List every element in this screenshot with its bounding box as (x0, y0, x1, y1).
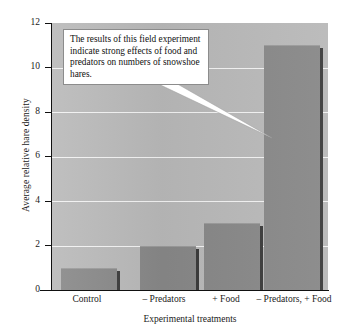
bar-side-shadow (320, 48, 323, 290)
callout-annotation: The results of this field experiment ind… (63, 29, 209, 85)
y-tick-label-10: 10 (0, 62, 40, 72)
y-tick-label-12: 12 (0, 18, 40, 28)
callout-text: The results of this field experiment ind… (70, 34, 200, 79)
bar-chart-figure: Average relative hare density The res (0, 0, 347, 334)
y-tick-12 (45, 23, 52, 24)
y-tick-label-4: 4 (0, 196, 40, 206)
y-tick-6 (45, 156, 52, 157)
y-tick-label-8: 8 (0, 107, 40, 117)
x-axis-line (40, 290, 329, 291)
y-tick-0 (45, 290, 52, 291)
bar-minus-predators-plus-food (264, 45, 320, 290)
bar-top-edge (204, 223, 260, 224)
y-tick-8 (45, 112, 52, 113)
y-tick-label-2: 2 (0, 240, 40, 250)
bar-side-shadow (117, 271, 120, 290)
y-tick-label-6: 6 (0, 151, 40, 161)
x-label-control: Control (50, 294, 124, 304)
bar-side-shadow (196, 249, 199, 291)
x-axis-title: Experimental treatments (52, 314, 328, 324)
y-tick-10 (45, 67, 52, 68)
y-axis-line (51, 23, 52, 291)
x-label-minus-predators-plus-food: – Predators, + Food (236, 294, 347, 304)
bar-side-shadow (260, 226, 263, 290)
bar-top-edge (264, 45, 320, 46)
y-tick-label-0: 0 (0, 285, 40, 295)
bar-minus-predators (140, 246, 196, 291)
bar-plus-food (204, 223, 260, 290)
bar-control (61, 268, 117, 290)
y-tick-2 (45, 245, 52, 246)
bar-top-edge (61, 268, 117, 269)
bar-top-edge (140, 246, 196, 247)
y-tick-4 (45, 201, 52, 202)
